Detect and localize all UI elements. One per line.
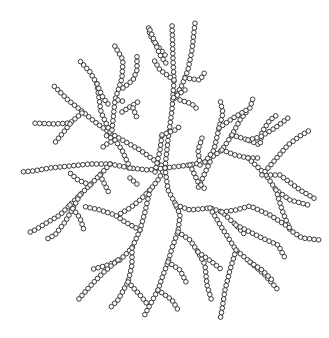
bead <box>68 171 73 176</box>
bead <box>78 59 83 64</box>
bead <box>196 154 201 159</box>
bead <box>205 283 210 288</box>
bead <box>97 207 102 212</box>
bead <box>81 226 86 231</box>
bead <box>58 165 63 170</box>
bead <box>76 163 81 168</box>
bead <box>141 215 146 220</box>
bead <box>170 42 175 47</box>
bead <box>237 154 242 159</box>
bead <box>170 33 175 38</box>
bead <box>30 169 35 174</box>
bead <box>184 279 189 284</box>
bead <box>99 162 104 167</box>
bead <box>118 211 123 216</box>
bead <box>90 162 95 167</box>
bead <box>170 106 175 111</box>
bead <box>147 192 152 197</box>
bead <box>116 98 121 103</box>
bead <box>288 198 293 203</box>
bead <box>135 64 140 69</box>
bead <box>163 170 168 175</box>
bead <box>152 59 157 64</box>
bead <box>218 315 223 320</box>
bead <box>49 166 54 171</box>
bead <box>169 249 174 254</box>
bead <box>230 261 235 266</box>
bead <box>109 304 114 309</box>
bead <box>218 266 223 271</box>
bead <box>106 189 111 194</box>
bead <box>220 210 225 215</box>
bead <box>135 100 140 105</box>
bead <box>120 74 125 79</box>
bead <box>238 207 243 212</box>
bead <box>106 102 111 107</box>
bead <box>198 163 203 168</box>
bead <box>177 218 182 223</box>
bead <box>100 264 105 269</box>
bead-chain-graphic <box>0 0 329 338</box>
bead <box>219 104 224 109</box>
bead <box>285 116 290 121</box>
bead <box>207 292 212 297</box>
bead <box>168 120 173 125</box>
bead <box>202 186 207 191</box>
bead <box>98 104 103 109</box>
bead <box>241 231 246 236</box>
bead <box>130 246 135 251</box>
bead <box>153 170 158 175</box>
bead <box>169 115 174 120</box>
bead <box>250 137 255 142</box>
bead <box>187 62 192 67</box>
bead <box>194 106 199 111</box>
bead <box>275 286 280 291</box>
bead <box>33 121 38 126</box>
bead <box>234 248 239 253</box>
bead <box>112 109 117 114</box>
bead <box>229 208 234 213</box>
bead <box>258 140 263 145</box>
bead <box>296 200 301 205</box>
bead <box>166 138 171 143</box>
bead <box>222 292 227 297</box>
bead <box>209 297 214 302</box>
bead <box>187 76 192 81</box>
bead <box>168 253 173 258</box>
bead <box>35 168 40 173</box>
bead <box>101 145 106 150</box>
bead <box>172 165 177 170</box>
bead <box>171 60 176 65</box>
branch <box>116 98 125 104</box>
bead <box>196 149 201 154</box>
bead <box>250 97 255 102</box>
bead <box>171 95 176 100</box>
bead <box>154 165 159 170</box>
bead <box>113 44 118 49</box>
bead <box>164 152 169 157</box>
bead <box>143 312 148 317</box>
bead <box>120 65 125 70</box>
bead <box>164 61 169 66</box>
bead <box>129 264 134 269</box>
bead <box>186 66 191 71</box>
bead <box>127 273 132 278</box>
bead <box>170 47 175 52</box>
bead <box>275 192 280 197</box>
bead <box>192 30 197 35</box>
bead <box>122 164 127 169</box>
bead <box>274 188 279 193</box>
bead <box>165 179 170 184</box>
bead <box>204 274 209 279</box>
bead <box>171 51 176 56</box>
bead <box>214 135 219 140</box>
bead <box>110 128 115 133</box>
bead <box>111 119 116 124</box>
bead <box>67 164 72 169</box>
bead <box>233 208 238 213</box>
bead <box>181 164 186 169</box>
bead <box>203 265 208 270</box>
bead <box>144 206 149 211</box>
bead <box>303 236 308 241</box>
bead <box>312 237 317 242</box>
